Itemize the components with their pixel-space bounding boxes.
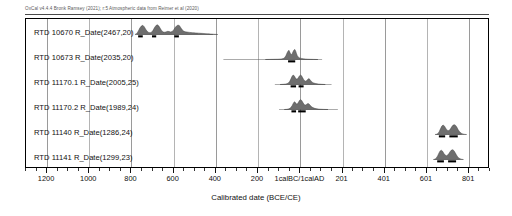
row-label: RTD 11170.2 R_Date(1989,24) [34,102,139,111]
axis-tick-minor [373,168,374,171]
axis-tick-major [130,168,131,173]
pdf-curve [433,150,463,160]
range-68-bar [439,135,445,137]
x-axis-title: Calibrated date (BCE/CE) [0,193,512,202]
axis-tick-label: 801 [462,174,474,183]
plot-area: RTD 10670 R_Date(2467,20)RTD 10673 R_Dat… [26,19,488,167]
range-68-bar [174,35,179,37]
pdf-curve [265,49,317,59]
range-68-bar [448,160,456,162]
axis-tick-label: 601 [420,174,432,183]
range-68-bar [449,135,457,137]
axis-tick-minor [183,168,184,171]
axis-tick-minor [236,168,237,171]
plot-frame: RTD 10670 R_Date(2467,20)RTD 10673 R_Dat… [25,18,489,168]
axis-tick-minor [394,168,395,171]
axis-tick-minor [25,168,26,171]
range-68-bar [298,110,306,112]
axis-tick-major [468,168,469,173]
oxcal-multiplot: OxCal v4.4.4 Bronk Ramsey (2021); r:5 At… [0,0,512,216]
axis-tick-minor [457,168,458,171]
credit-divider [25,14,489,15]
axis-tick-label: 800 [124,174,136,183]
range-68-bar [288,60,295,62]
axis-tick-minor [278,168,279,171]
axis-tick-label: 1200 [38,174,54,183]
axis-tick-major [215,168,216,173]
axis-tick-minor [194,168,195,171]
axis-tick-minor [268,168,269,171]
axis-tick-minor [352,168,353,171]
axis-tick-minor [99,168,100,171]
pdf-curve [435,125,467,135]
axis-tick-label: 401 [378,174,390,183]
axis-tick-minor [120,168,121,171]
axis-tick-minor [478,168,479,171]
row-label: RTD 11170.1 R_Date(2005,25) [34,77,139,86]
x-axis: 120010008006004002001calBC/1calAD2014016… [25,168,489,192]
axis-tick-label: 1calBC/1calAD [275,174,325,183]
axis-tick-major [342,168,343,173]
range-68-bar [291,85,296,87]
row-label: RTD 11141 R_Date(1299,23) [34,152,132,161]
axis-tick-minor [246,168,247,171]
axis-tick-minor [225,168,226,171]
distribution-row[interactable]: RTD 11170.1 R_Date(2005,25) [26,69,488,94]
axis-tick-label: 600 [166,174,178,183]
axis-tick-minor [331,168,332,171]
axis-tick-minor [67,168,68,171]
axis-tick-minor [109,168,110,171]
oxcal-credit-line: OxCal v4.4.4 Bronk Ramsey (2021); r:5 At… [25,5,485,13]
pdf-curve [135,25,218,35]
axis-tick-minor [447,168,448,171]
row-label: RTD 10673 R_Date(2035,20) [34,52,134,61]
range-68-bar [291,110,296,112]
distribution-row[interactable]: RTD 11170.2 R_Date(1989,24) [26,94,488,119]
pdf-curve [284,100,328,110]
axis-tick-minor [78,168,79,171]
range-68-bar [152,35,156,37]
row-label: RTD 11140 R_Date(1286,24) [34,127,132,136]
axis-tick-label: 400 [209,174,221,183]
axis-tick-minor [57,168,58,171]
axis-tick-minor [320,168,321,171]
axis-tick-minor [36,168,37,171]
axis-tick-minor [489,168,490,171]
axis-tick-minor [152,168,153,171]
axis-tick-minor [436,168,437,171]
axis-tick-minor [141,168,142,171]
axis-tick-label: 201 [335,174,347,183]
axis-tick-major [257,168,258,173]
distribution-row[interactable]: RTD 11141 R_Date(1299,23) [26,144,488,167]
range-68-bar [299,85,304,87]
row-label: RTD 10670 R_Date(2467,20) [34,27,134,36]
axis-tick-minor [289,168,290,171]
distribution-row[interactable]: RTD 10670 R_Date(2467,20) [26,19,488,44]
axis-tick-major [88,168,89,173]
axis-tick-minor [204,168,205,171]
axis-tick-major [299,168,300,173]
distribution-row[interactable]: RTD 10673 R_Date(2035,20) [26,44,488,69]
axis-tick-minor [405,168,406,171]
pdf-curve [280,75,325,84]
axis-tick-minor [162,168,163,171]
axis-tick-minor [362,168,363,171]
axis-tick-label: 1000 [80,174,96,183]
axis-tick-minor [415,168,416,171]
axis-tick-major [384,168,385,173]
axis-tick-major [46,168,47,173]
range-68-bar [138,35,143,37]
range-68-bar [437,160,444,162]
axis-tick-label: 200 [251,174,263,183]
axis-tick-major [426,168,427,173]
axis-tick-minor [310,168,311,171]
distribution-row[interactable]: RTD 11140 R_Date(1286,24) [26,119,488,144]
axis-tick-major [173,168,174,173]
